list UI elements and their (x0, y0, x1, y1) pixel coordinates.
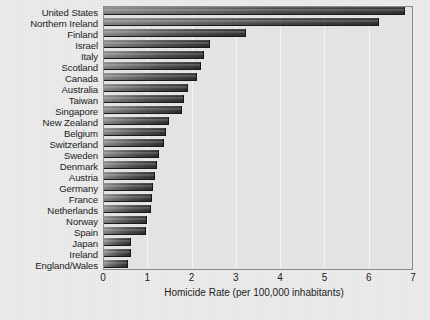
category-label: Japan (72, 237, 98, 248)
bar-row: Australia (0, 83, 430, 94)
bar (104, 183, 153, 191)
homicide-rate-bar-chart: United StatesNorthern IrelandFinlandIsra… (0, 0, 430, 320)
category-label: Italy (81, 50, 98, 61)
bar (104, 205, 151, 213)
category-label: United States (42, 6, 98, 17)
bar-row: Norway (0, 215, 430, 226)
category-label: Scotland (61, 61, 98, 72)
x-tick-label-3: 3 (233, 272, 239, 283)
bar (104, 139, 164, 147)
category-label: Sweden (64, 149, 98, 160)
category-label: England/Wales (35, 259, 98, 270)
category-label: Denmark (60, 160, 98, 171)
bar (104, 18, 379, 26)
bar (104, 51, 204, 59)
category-label: Germany (59, 182, 98, 193)
bar (104, 150, 159, 158)
bar (104, 172, 155, 180)
bar (104, 106, 182, 114)
bar-row: Israel (0, 39, 430, 50)
bar (104, 260, 128, 268)
bar-row: Japan (0, 237, 430, 248)
bar (104, 84, 188, 92)
bar (104, 117, 169, 125)
x-tick-label-1: 1 (145, 272, 151, 283)
x-tick-label-2: 2 (189, 272, 195, 283)
category-label: France (69, 193, 98, 204)
bar-row: Ireland (0, 248, 430, 259)
bar-row: Sweden (0, 149, 430, 160)
bar (104, 128, 166, 136)
category-label: Switzerland (50, 138, 99, 149)
bar (104, 227, 146, 235)
category-label: Norway (66, 215, 98, 226)
bar (104, 95, 184, 103)
bar-row: Belgium (0, 127, 430, 138)
category-label: Austria (69, 171, 98, 182)
bar-rows: United StatesNorthern IrelandFinlandIsra… (0, 6, 430, 270)
bar (104, 216, 147, 224)
bar-row: Switzerland (0, 138, 430, 149)
bar-row: United States (0, 6, 430, 17)
bar-row: Netherlands (0, 204, 430, 215)
bar-row: Germany (0, 182, 430, 193)
category-label: Australia (62, 83, 98, 94)
category-label: Taiwan (69, 94, 98, 105)
x-axis-title: Homicide Rate (per 100,000 inhabitants) (0, 287, 430, 298)
category-label: Canada (65, 72, 98, 83)
category-label: New Zealand (43, 116, 98, 127)
bar-row: England/Wales (0, 259, 430, 270)
bar-row: Spain (0, 226, 430, 237)
category-label: Ireland (69, 248, 98, 259)
bar-row: Denmark (0, 160, 430, 171)
category-label: Finland (67, 28, 98, 39)
category-label: Belgium (64, 127, 98, 138)
bar-row: New Zealand (0, 116, 430, 127)
bar (104, 29, 246, 37)
bar-row: Canada (0, 72, 430, 83)
bar (104, 194, 152, 202)
bar-row: France (0, 193, 430, 204)
x-tick-label-5: 5 (322, 272, 328, 283)
x-tick-label-6: 6 (366, 272, 372, 283)
bar-row: Taiwan (0, 94, 430, 105)
x-axis-tick-labels: 01234567 (0, 272, 430, 286)
bar (104, 62, 201, 70)
category-label: Israel (75, 39, 98, 50)
bar (104, 73, 197, 81)
x-tick-label-4: 4 (277, 272, 283, 283)
category-label: Netherlands (47, 204, 98, 215)
bar-row: Finland (0, 28, 430, 39)
bar-row: Italy (0, 50, 430, 61)
bar (104, 249, 131, 257)
bar (104, 40, 210, 48)
bar-row: Northern Ireland (0, 17, 430, 28)
category-label: Spain (74, 226, 98, 237)
x-axis-title-text: Homicide Rate (per 100,000 inhabitants) (86, 287, 344, 298)
bar (104, 7, 405, 15)
x-tick-label-7: 7 (410, 272, 416, 283)
bar-row: Austria (0, 171, 430, 182)
bar-row: Singapore (0, 105, 430, 116)
x-tick-label-0: 0 (100, 272, 106, 283)
bar (104, 161, 157, 169)
category-label: Northern Ireland (30, 17, 98, 28)
bar-row: Scotland (0, 61, 430, 72)
category-label: Singapore (55, 105, 98, 116)
bar (104, 238, 131, 246)
